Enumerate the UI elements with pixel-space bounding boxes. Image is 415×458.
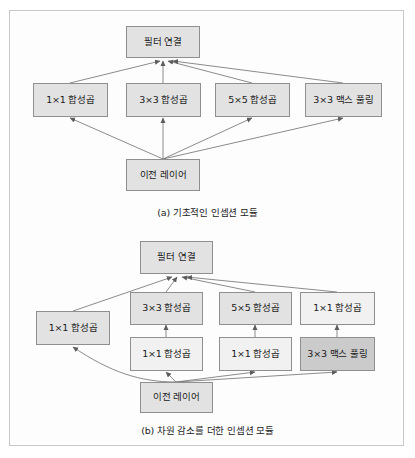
node-a-previous-layer[interactable]: 이전 레이어 [126,159,200,191]
node-a-conv-5x5[interactable]: 5×5 합성곱 [215,83,290,117]
figure-frame [9,10,404,446]
node-b-reduce-conv-1x1-b[interactable]: 1×1 합성곱 [219,337,292,371]
node-b-left-conv-1x1[interactable]: 1×1 합성곱 [36,311,110,345]
node-b-previous-layer[interactable]: 이전 레이어 [140,382,213,413]
node-a-filter-concat[interactable]: 필터 연결 [126,26,200,58]
node-b-conv-5x5[interactable]: 5×5 합성곱 [219,292,292,325]
node-b-reduce-conv-1x1-a[interactable]: 1×1 합성곱 [130,337,203,371]
node-b-maxpool-3x3[interactable]: 3×3 맥스 풀링 [300,337,375,371]
caption-panel-a: (a) 기초적인 인셉션 모듈 [0,205,415,219]
node-a-maxpool-3x3[interactable]: 3×3 맥스 풀링 [305,83,382,117]
node-b-conv-3x3[interactable]: 3×3 합성곱 [130,292,203,325]
caption-panel-b: (b) 차원 감소를 더한 인셉션 모듈 [0,423,415,437]
node-b-filter-concat[interactable]: 필터 연결 [140,241,213,274]
figure-root: 필터 연결 1×1 합성곱 3×3 합성곱 5×5 합성곱 3×3 맥스 풀링 … [0,0,415,458]
node-b-right-conv-1x1[interactable]: 1×1 합성곱 [300,292,375,325]
node-a-conv-3x3[interactable]: 3×3 합성곱 [126,83,201,117]
node-a-conv-1x1[interactable]: 1×1 합성곱 [33,83,108,117]
